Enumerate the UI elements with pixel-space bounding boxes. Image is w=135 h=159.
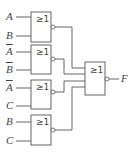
input-label-a-bar: A <box>6 46 13 57</box>
input-label-b-bar: B <box>6 64 13 75</box>
input-label-c: C <box>6 100 13 111</box>
gate-4-symbol: ≥1 <box>36 118 49 127</box>
gate-3-symbol: ≥1 <box>36 83 49 92</box>
logic-circuit-diagram: ≥1 ≥1 ≥1 ≥1 ≥1 A B A B A C B C F <box>0 0 135 159</box>
gate-final-symbol: ≥1 <box>90 66 103 75</box>
input-label-c-2: C <box>6 135 13 146</box>
gate-1-symbol: ≥1 <box>36 15 49 24</box>
output-label-f: F <box>121 73 128 84</box>
input-label-b: B <box>6 30 13 41</box>
input-label-b-2: B <box>6 116 13 127</box>
input-label-a-bar-2: A <box>6 82 13 93</box>
input-label-a: A <box>6 11 13 22</box>
circuit-wiring <box>0 0 135 159</box>
gate-2-symbol: ≥1 <box>36 48 49 57</box>
